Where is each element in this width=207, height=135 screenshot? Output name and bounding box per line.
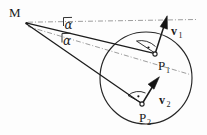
point-marker-p1 (153, 52, 157, 56)
right-angle-arc-p2 (128, 91, 146, 95)
label-v1-subscript: 1 (179, 31, 183, 40)
vector-v1-arrowhead (160, 16, 167, 29)
label-v1-letter: v (171, 24, 177, 38)
label-p2: P 2 (139, 110, 151, 127)
label-alpha-upper: α (65, 18, 73, 32)
label-p1-letter: P (158, 58, 165, 73)
label-m: M (9, 5, 21, 20)
label-v2-subscript: 2 (167, 100, 171, 109)
right-angle-dot-p2 (137, 95, 139, 97)
label-alpha-lower: α (63, 34, 71, 48)
point-marker-p2 (140, 102, 144, 106)
right-angle-arc-p1 (137, 41, 156, 47)
label-v2-letter: v (159, 93, 165, 107)
geometry-diagram: M α α P 1 P 2 v 1 v 2 (0, 0, 207, 135)
label-p1: P 1 (158, 58, 170, 75)
right-angle-dot-p1 (147, 46, 149, 48)
vector-v1-shaft (155, 26, 164, 55)
point-marker-m (25, 22, 28, 25)
figure-container: M α α P 1 P 2 v 1 v 2 (0, 0, 207, 135)
sight-line-m-to-p2 (27, 24, 141, 103)
label-p2-subscript: 2 (147, 118, 151, 127)
sight-line-m-to-p1 (27, 23, 154, 53)
label-p2-letter: P (139, 110, 146, 125)
reference-line-upper (28, 20, 196, 23)
vector-v2-shaft (142, 88, 152, 105)
label-v2: v 2 (159, 93, 171, 109)
label-v1: v 1 (171, 24, 183, 40)
label-p1-subscript: 1 (166, 66, 170, 75)
vector-v2-arrowhead (148, 77, 159, 89)
